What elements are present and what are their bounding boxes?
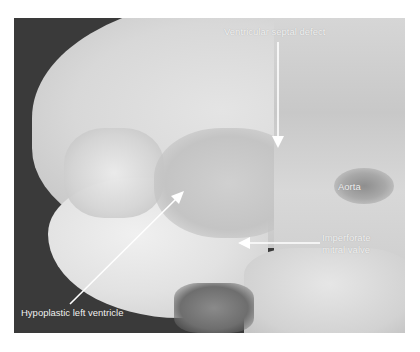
vsd-arrowhead — [272, 136, 284, 148]
label-ventricular-septal-defect: Ventricular septal defect — [224, 26, 325, 38]
specimen-photo: Ventricular septal defect Aorta Imperfor… — [14, 18, 405, 333]
label-hypoplastic-left-ventricle: Hypoplastic left ventricle — [21, 307, 123, 319]
arrow-overlay — [14, 18, 405, 333]
hlv-arrow-shaft — [70, 198, 177, 304]
label-imperforate-mitral-valve-line2: mitral valve — [322, 244, 370, 256]
mitral-arrowhead — [238, 237, 250, 249]
label-imperforate-mitral-valve-line1: Imperforate — [322, 232, 371, 244]
label-aorta: Aorta — [338, 181, 361, 193]
